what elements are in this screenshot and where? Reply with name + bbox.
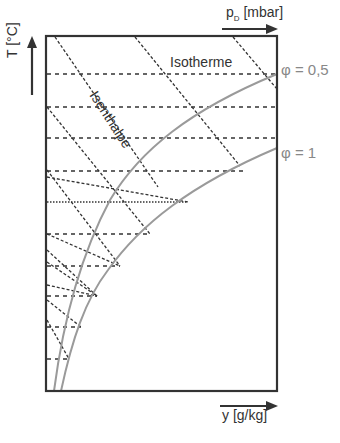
isenthalps <box>47 37 277 359</box>
isotherm-label: Isotherme <box>170 54 232 70</box>
phi-05-label: φ = 0,5 <box>281 61 329 78</box>
t-axis-label: T [°C] <box>4 22 20 58</box>
phi-1-label: φ = 1 <box>281 144 316 161</box>
y-axis-label: y [g/kg] <box>222 407 267 423</box>
p-axis-label: pD [mbar] <box>226 4 283 23</box>
curve-phi-05 <box>54 74 277 391</box>
curve-phi-1 <box>61 148 277 391</box>
